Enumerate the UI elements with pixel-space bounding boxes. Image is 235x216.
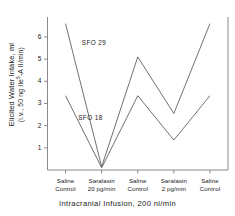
series-line-sfo-18 <box>66 96 210 168</box>
y-axis-title-line2-post: -A II/min) <box>18 47 25 76</box>
x-category-label: SalineControl <box>120 177 156 193</box>
x-category-label-line1: Saline <box>120 177 156 185</box>
y-tick-label: 1 <box>32 144 42 151</box>
x-category-label-line2: 2 pg/min <box>156 185 192 193</box>
y-tick-label: 2 <box>32 122 42 129</box>
y-axis-title-line2: (i.v., 50 ng Ile5-A II/min) <box>17 43 27 126</box>
x-category-label-line2: Control <box>120 185 156 193</box>
x-category-label-line2: Control <box>192 185 228 193</box>
y-tick-label: 5 <box>32 55 42 62</box>
x-category-label: Saralasin2 pg/min <box>156 177 192 193</box>
x-category-label-line1: Saline <box>48 177 84 185</box>
x-axis-ticks <box>66 170 210 174</box>
x-category-label-line1: Saralasin <box>84 177 120 185</box>
y-axis-ticks <box>44 37 48 148</box>
x-category-label: SalineControl <box>192 177 228 193</box>
x-axis-title: Intracranial Infusion, 200 nl/min <box>0 199 235 208</box>
y-tick-label: 3 <box>32 99 42 106</box>
chart-figure: Elicited Water Intake, ml (i.v., 50 ng I… <box>0 0 235 216</box>
y-tick-label: 6 <box>32 33 42 40</box>
x-category-label-line1: Saline <box>192 177 228 185</box>
y-axis-title-line2-pre: (i.v., 50 ng Ile <box>18 79 25 122</box>
series-annotation-sfo-18: SFO 18 <box>78 114 102 121</box>
y-axis-title: Elicited Water Intake, ml (i.v., 50 ng I… <box>2 0 32 170</box>
x-category-label: SalineControl <box>48 177 84 193</box>
x-category-label-line2: Control <box>48 185 84 193</box>
x-category-label-line2: 20 pg/min <box>84 185 120 193</box>
x-category-label: Saralasin20 pg/min <box>84 177 120 193</box>
y-tick-label: 4 <box>32 77 42 84</box>
y-axis-title-superscript: 5 <box>17 76 22 79</box>
x-category-label-line1: Saralasin <box>156 177 192 185</box>
series-annotation-sfo-29: SFO 29 <box>82 39 106 46</box>
